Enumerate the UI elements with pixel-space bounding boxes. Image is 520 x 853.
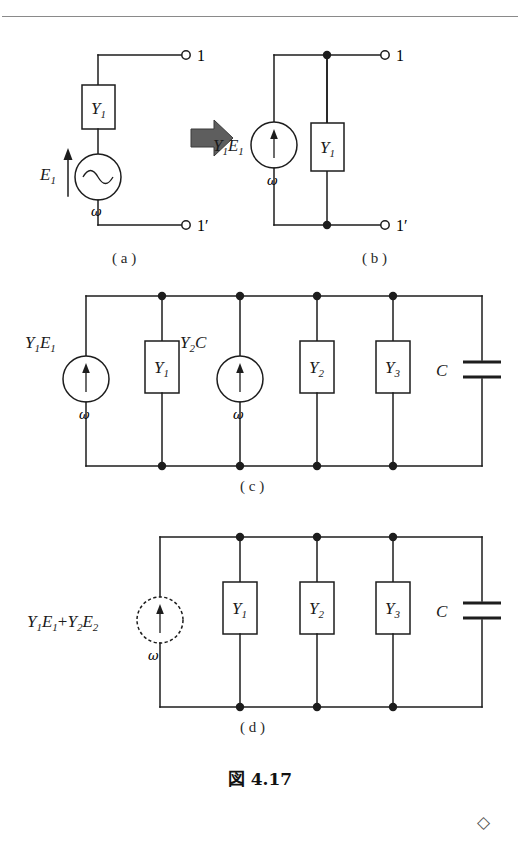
subfigure-d: Y1E1+Y2E2 ω Y1 Y2 Y3: [27, 533, 501, 711]
junction-dot-d-t3: [389, 533, 397, 541]
terminal-1-a[interactable]: [182, 51, 190, 59]
subfigure-a: Y1 E1 ω 1 1′: [39, 47, 209, 234]
figure-caption: 図 4.17: [0, 765, 520, 790]
terminal-label-1-a: 1: [197, 47, 205, 64]
terminal-label-1p-b: 1′: [396, 217, 408, 234]
end-mark-icon: ◇: [477, 812, 490, 832]
junction-dot-c-b3: [313, 462, 321, 470]
junction-dot-b-bottom: [323, 221, 331, 229]
junction-dot-c-b2: [236, 462, 244, 470]
label-e1-a: E1: [39, 165, 56, 186]
terminal-1-b[interactable]: [381, 51, 389, 59]
junction-dot-d-t1: [236, 533, 244, 541]
subfigure-caption-b: ( b ): [362, 250, 387, 267]
subfigure-caption-d: ( d ): [240, 719, 265, 736]
junction-dot-d-b3: [389, 703, 397, 711]
junction-dot-c-b1: [158, 462, 166, 470]
junction-dot-d-b1: [236, 703, 244, 711]
junction-dot-c-t4: [389, 292, 397, 300]
terminal-1p-b[interactable]: [381, 221, 389, 229]
label-omega-b: ω: [267, 173, 278, 188]
subfigure-b: Y1 Y1E1 ω 1 1′: [213, 47, 408, 234]
junction-dot-d-b2: [313, 703, 321, 711]
label-omega-c1: ω: [79, 407, 90, 422]
terminal-1p-a[interactable]: [182, 221, 190, 229]
label-source-c2: Y2C: [180, 333, 207, 354]
e1-arrow-head: [64, 148, 73, 160]
label-source-c1: Y1E1: [25, 333, 56, 354]
label-omega-d: ω: [148, 648, 159, 663]
figure-page: Y1 E1 ω 1 1′: [0, 0, 520, 853]
label-source-d: Y1E1+Y2E2: [27, 612, 99, 633]
label-c-d: C: [436, 602, 448, 621]
terminal-label-1-b: 1: [396, 47, 404, 64]
label-omega-a: ω: [91, 204, 102, 219]
top-rule: [2, 16, 518, 17]
label-omega-c2: ω: [233, 407, 244, 422]
junction-dot-c-b4: [389, 462, 397, 470]
terminal-label-1p-a: 1′: [197, 217, 209, 234]
junction-dot-d-t2: [313, 533, 321, 541]
label-source-b: Y1E1: [213, 136, 244, 157]
junction-dot-c-t2: [236, 292, 244, 300]
subfigure-c: Y1E1 ω Y1 Y2C ω Y2: [25, 292, 501, 470]
subfigure-caption-a: ( a ): [112, 250, 136, 267]
subfigure-caption-c: ( c ): [240, 478, 264, 495]
junction-dot-c-t1: [158, 292, 166, 300]
junction-dot-c-t3: [313, 292, 321, 300]
label-c-c: C: [436, 361, 448, 380]
junction-dot-b-top: [323, 51, 331, 59]
